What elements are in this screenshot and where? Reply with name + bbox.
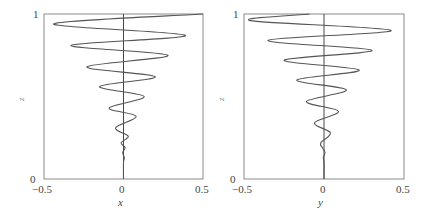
panel-x: 1 0 −0.5 0 0.5 x z — [16, 8, 209, 208]
ylabel-z-right: z — [216, 97, 226, 102]
ytick-1: 1 — [33, 8, 39, 20]
xtick-neg: −0.5 — [32, 183, 52, 195]
xtick-zero: 0 — [320, 183, 326, 195]
curve-y-of-z — [248, 14, 391, 179]
panel-y: 1 0 −0.5 0 0.5 y z — [216, 8, 410, 208]
curve-x-of-z — [53, 14, 203, 179]
xtick-pos: 0.5 — [195, 183, 209, 195]
ytick-1: 1 — [233, 8, 239, 20]
xtick-neg: −0.5 — [232, 183, 252, 195]
xtick-pos: 0.5 — [396, 183, 410, 195]
xlabel-x: x — [117, 196, 123, 208]
ylabel-z-left: z — [16, 97, 26, 102]
figure: 1 0 −0.5 0 0.5 x z 1 0 −0.5 0 0.5 y z — [0, 0, 428, 222]
xlabel-y: y — [317, 196, 323, 208]
xtick-zero: 0 — [119, 183, 125, 195]
